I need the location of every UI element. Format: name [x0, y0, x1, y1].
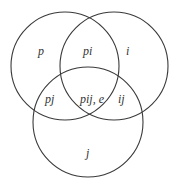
region-label-pj: pj [44, 92, 55, 106]
region-label-pij: pij, e [79, 92, 105, 106]
region-label-i: i [126, 44, 129, 58]
region-label-j: j [84, 146, 90, 160]
region-label-pi: pi [82, 44, 92, 58]
region-label-ij: ij [118, 92, 125, 106]
venn-svg: p pi i pj pij, e ij j [0, 0, 179, 195]
circle-j [33, 67, 143, 177]
region-label-p: p [37, 44, 44, 58]
venn-diagram: p pi i pj pij, e ij j [0, 0, 179, 195]
circle-i [60, 12, 168, 120]
